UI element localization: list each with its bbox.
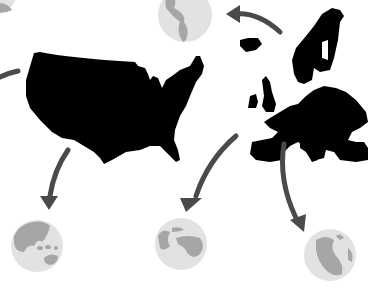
arrow-to-americas-icon xyxy=(226,5,280,32)
migration-illustration xyxy=(0,0,391,307)
arrow-to-asia-pacific-icon xyxy=(40,150,68,210)
arrow-to-south-america-icon xyxy=(283,144,307,232)
europe-silhouette-icon xyxy=(240,8,368,162)
americas-globe-icon xyxy=(158,0,212,42)
arrow-from-left-icon xyxy=(0,71,18,78)
south-america-globe-icon xyxy=(304,229,356,281)
asia-pacific-globe-icon xyxy=(11,220,63,272)
arrow-to-africa-europe-icon xyxy=(180,136,236,212)
partial-globe-top-left-icon xyxy=(0,0,17,14)
africa-europe-globe-icon xyxy=(155,218,207,270)
usa-silhouette-icon xyxy=(26,52,204,164)
